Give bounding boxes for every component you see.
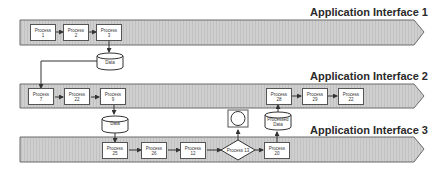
processed-line2: Data	[265, 122, 291, 127]
process-2-box: Process 2	[63, 24, 89, 41]
process-number: 7	[40, 97, 43, 102]
process-25-box: Process 25	[102, 142, 128, 159]
process-22b-box: Process 22	[338, 88, 364, 105]
data-store-2-label: Data	[102, 121, 128, 126]
process-1-box: Process 1	[30, 24, 56, 41]
process-number: 22	[74, 97, 79, 102]
band-3-title: Application Interface 3	[310, 124, 428, 136]
process-3-box: Process 3	[96, 24, 122, 41]
process-number: 26	[151, 151, 156, 156]
process-9-box: Process 9	[100, 88, 126, 105]
process-number: 20	[274, 151, 279, 156]
process-7-box: Process 7	[28, 88, 54, 105]
process-number: 2	[75, 33, 78, 38]
processed-data-label: Processed Data	[265, 117, 291, 127]
process-number: 28	[276, 97, 281, 102]
process-20-box: Process 20	[264, 142, 290, 159]
process-number: 1	[42, 33, 45, 38]
process-number: 29	[312, 97, 317, 102]
process-number: 3	[108, 33, 111, 38]
process-number: 25	[112, 151, 117, 156]
process-22-box: Process 22	[64, 88, 90, 105]
process-12-box: Process 12	[180, 142, 206, 159]
band-1-title: Application Interface 1	[310, 6, 428, 18]
data-store-1-label: Data	[97, 60, 123, 65]
terminator-node	[228, 110, 248, 127]
process-number: 12	[190, 151, 195, 156]
process-number: 9	[112, 97, 115, 102]
process-26-box: Process 26	[141, 142, 167, 159]
process-29-box: Process 29	[302, 88, 328, 105]
process-flow-diagram: Application Interface 1 Application Inte…	[0, 0, 441, 174]
process-number: 22	[348, 97, 353, 102]
decision-label: Process 13	[222, 148, 254, 153]
band-2-title: Application Interface 2	[310, 70, 428, 82]
process-28-box: Process 28	[266, 88, 292, 105]
